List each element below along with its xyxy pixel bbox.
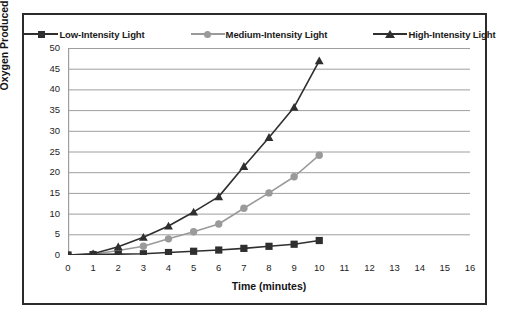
x-tick-label: 16 [459,262,481,273]
x-tick-label: 2 [107,262,129,273]
data-point-marker [316,152,323,159]
data-point-marker [215,220,222,227]
series-line-circle [68,155,319,255]
data-point-marker [240,245,247,252]
chart-canvas [68,48,470,255]
data-point-marker [165,235,172,242]
x-tick-label: 8 [258,262,280,273]
data-point-marker [291,241,298,248]
x-tick-label: 1 [82,262,104,273]
y-tick-label: 0 [34,249,60,260]
legend-item-low-intensity: Low-Intensity Light [24,25,144,43]
data-point-marker [265,189,272,196]
legend-item-high-intensity: High-Intensity Light [373,25,495,43]
x-tick-label: 3 [132,262,154,273]
data-point-marker [190,248,197,255]
x-tick-label: 15 [434,262,456,273]
data-point-marker [140,243,147,250]
x-tick-label: 0 [57,262,79,273]
x-axis-title: Time (minutes) [68,280,470,292]
data-point-marker [240,205,247,212]
data-point-marker [165,249,172,255]
y-tick-label: 5 [34,228,60,239]
x-tick-label: 10 [308,262,330,273]
data-point-marker [189,208,198,216]
data-point-marker [265,243,272,250]
legend-label-medium: Medium-Intensity Light [226,29,328,40]
legend-line-low [24,29,58,39]
legend-label-low: Low-Intensity Light [59,29,144,40]
y-tick-label: 10 [34,208,60,219]
square-marker-icon [38,31,45,38]
y-tick-label: 30 [34,125,60,136]
y-tick-label: 50 [34,42,60,53]
x-tick-label: 4 [158,262,180,273]
y-tick-label: 35 [34,104,60,115]
data-point-marker [290,103,299,111]
x-tick-label: 14 [409,262,431,273]
circle-marker-icon [204,31,211,38]
chart-legend: Low-Intensity Light Medium-Intensity Lig… [60,25,460,43]
x-tick-label: 6 [208,262,230,273]
x-tick-label: 12 [359,262,381,273]
chart-figure: Low-Intensity Light Medium-Intensity Lig… [0,0,509,320]
x-tick-label: 9 [283,262,305,273]
legend-label-high: High-Intensity Light [408,29,495,40]
data-point-marker [215,246,222,253]
legend-line-medium [191,29,225,39]
y-tick-label: 45 [34,63,60,74]
plot-area [68,48,470,255]
data-point-marker [164,222,173,230]
y-tick-label: 20 [34,166,60,177]
x-tick-label: 13 [384,262,406,273]
x-tick-label: 11 [333,262,355,273]
data-point-marker [190,228,197,235]
data-point-marker [315,57,324,65]
y-tick-label: 25 [34,146,60,157]
data-point-marker [139,233,148,241]
x-tick-label: 5 [183,262,205,273]
y-tick-label: 15 [34,187,60,198]
data-point-marker [290,173,297,180]
x-tick-label: 7 [233,262,255,273]
y-tick-label: 40 [34,83,60,94]
triangle-marker-icon [385,30,395,38]
y-axis-title: Oxygen Produced (µl) [0,0,10,96]
data-point-marker [140,250,147,255]
legend-item-medium-intensity: Medium-Intensity Light [191,25,328,43]
data-point-marker [316,237,323,244]
legend-line-high [373,29,407,39]
data-point-marker [115,251,122,255]
